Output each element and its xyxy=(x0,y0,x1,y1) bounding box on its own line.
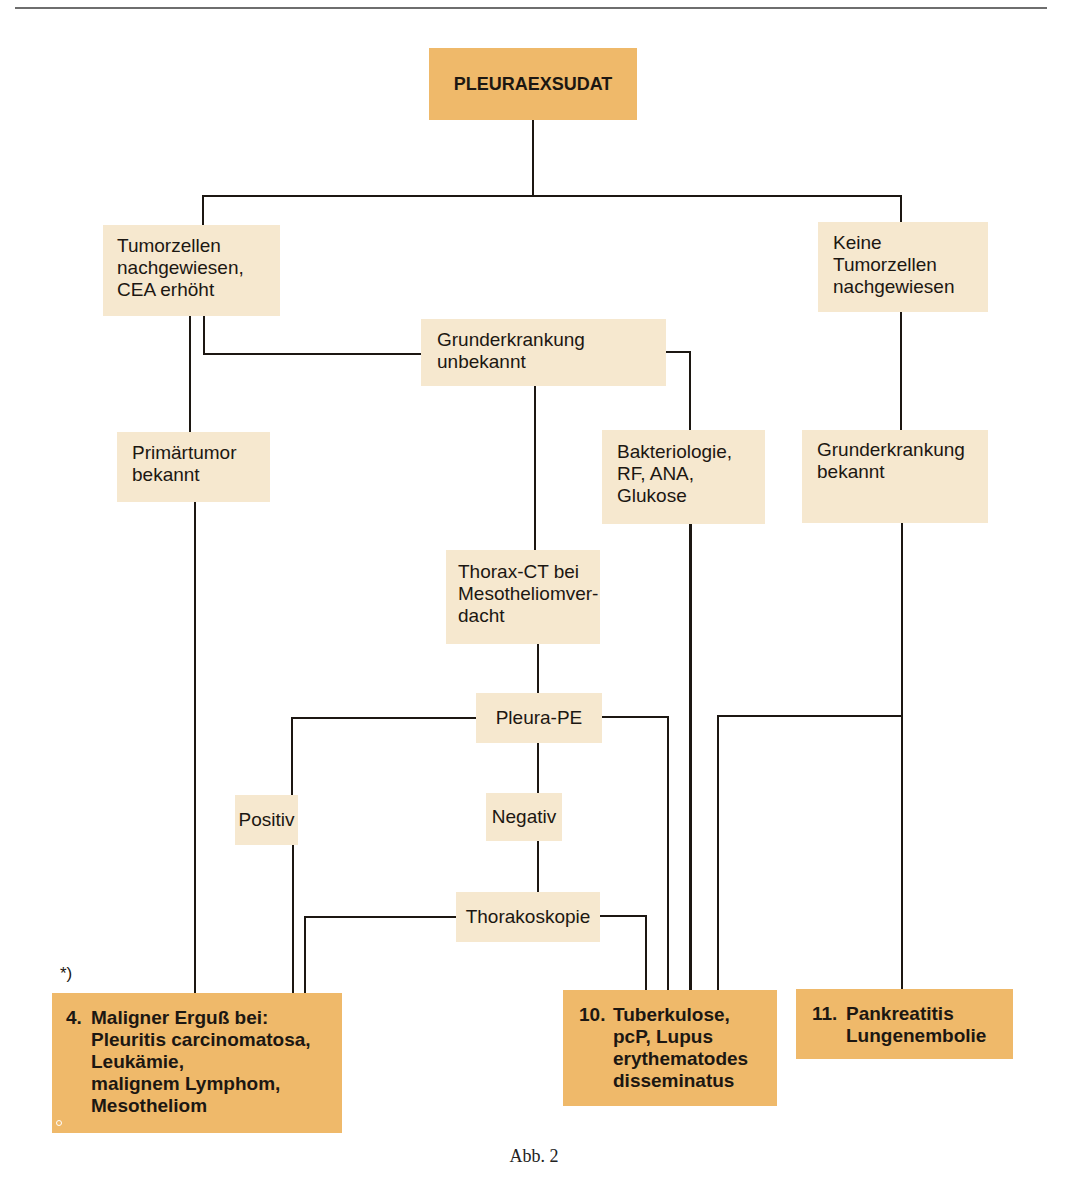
outcome-4-maligner-erguss: 4. Maligner Erguß bei: Pleuritis carcino… xyxy=(52,993,342,1133)
root-node-pleuraexsudat: PLEURAEXSUDAT xyxy=(429,48,637,120)
figure-caption: Abb. 2 xyxy=(0,1146,1068,1167)
print-mark-dot xyxy=(56,1120,62,1126)
node-pleura-pe: Pleura-PE xyxy=(476,693,602,743)
node-positiv: Positiv xyxy=(235,795,298,845)
root-node-label: PLEURAEXSUDAT xyxy=(454,73,613,95)
node-grunderkrankung-unbekannt: Grunderkrankung unbekannt xyxy=(421,319,666,386)
node-bakteriologie: Bakteriologie, RF, ANA, Glukose xyxy=(602,430,765,524)
node-tumorzellen-nachgewiesen: Tumorzellen nachgewiesen, CEA erhöht xyxy=(103,225,280,316)
footnote-marker: *) xyxy=(60,964,72,984)
node-thorax-ct: Thorax-CT bei Mesotheliomver- dacht xyxy=(446,550,600,644)
outcome-11-pankreatitis: 11. Pankreatitis Lungenembolie xyxy=(796,989,1013,1059)
node-thorakoskopie: Thorakoskopie xyxy=(456,892,600,942)
outcome-number: 4. xyxy=(66,1007,91,1117)
node-primaertumor-bekannt: Primärtumor bekannt xyxy=(117,432,270,502)
outcome-10-tuberkulose: 10. Tuberkulose, pcP, Lupus erythematode… xyxy=(563,990,777,1106)
node-keine-tumorzellen: Keine Tumorzellen nachgewiesen xyxy=(818,222,988,312)
outcome-number: 11. xyxy=(812,1003,846,1047)
node-negativ: Negativ xyxy=(486,793,562,841)
node-grunderkrankung-bekannt: Grunderkrankung bekannt xyxy=(802,430,988,523)
outcome-number: 10. xyxy=(579,1004,613,1092)
